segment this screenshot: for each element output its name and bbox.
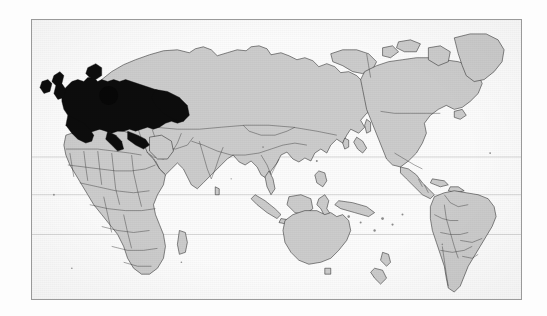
point-marker-icon — [99, 86, 118, 105]
page-root: World map with European region highlight… — [0, 0, 547, 316]
world-map-svg — [32, 20, 521, 299]
figure-title: World map with European region highlight… — [0, 0, 1, 1]
marker-label: point-marker — [0, 0, 1, 1]
world-map-figure — [31, 19, 522, 300]
scan-speck — [442, 244, 444, 246]
scan-speck — [53, 194, 55, 196]
scan-speck — [230, 178, 231, 179]
island-speck — [262, 146, 264, 148]
scan-speck — [71, 267, 73, 269]
island-speck — [391, 223, 393, 225]
island-speck — [316, 160, 318, 162]
island-speck — [347, 215, 350, 218]
figure-caption — [0, 0, 1, 1]
highlight-region-label: Europe — [0, 0, 1, 1]
island-speck — [373, 229, 375, 231]
tasmania-island — [325, 268, 331, 274]
scan-speck — [181, 261, 183, 263]
scan-speck — [489, 152, 491, 154]
island-speck — [360, 222, 362, 224]
madagascar-island — [177, 230, 187, 254]
island-speck — [401, 214, 403, 216]
island-speck — [381, 217, 384, 220]
